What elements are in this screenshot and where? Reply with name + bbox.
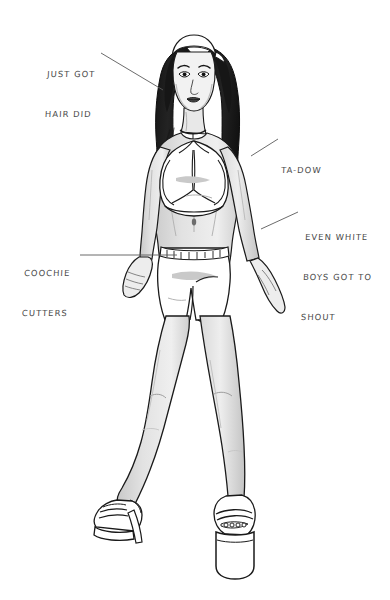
- illustration-canvas: JUST GOT HAIR DID TA-DOW EVEN WHITE BOYS…: [0, 0, 390, 600]
- annotation-line: EVEN WHITE: [305, 231, 375, 244]
- annotation-even-white-boys-got-to-shout: EVEN WHITE BOYS GOT TO SHOUT: [299, 205, 376, 350]
- artboard: JUST GOT HAIR DID TA-DOW EVEN WHITE BOYS…: [0, 0, 390, 600]
- leader-line-just-got-hair-did: [101, 53, 163, 90]
- annotation-line: SHOUT: [301, 311, 371, 324]
- annotation-ta-dow: TA-DOW: [279, 138, 323, 204]
- annotation-coochie-cutters: COOCHIE CUTTERS: [20, 241, 72, 347]
- annotation-line: COOCHIE: [24, 267, 71, 280]
- annotation-line: CUTTERS: [22, 307, 69, 320]
- annotation-line: BOYS GOT TO: [303, 271, 373, 284]
- annotation-just-got-hair-did: JUST GOT HAIR DID: [43, 42, 97, 148]
- annotation-line: TA-DOW: [281, 164, 322, 177]
- annotation-line: HAIR DID: [45, 108, 94, 121]
- annotation-line: JUST GOT: [47, 68, 96, 81]
- leader-line-even-white-boys: [261, 212, 298, 229]
- leader-line-ta-dow: [251, 139, 278, 156]
